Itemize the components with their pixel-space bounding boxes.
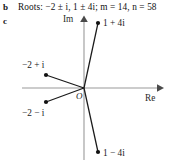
point-label-1-plus-4i: 1 + 4i [103, 18, 125, 28]
imaginary-axis-arrowhead [80, 16, 88, 23]
vector-1-plus-4i [84, 23, 98, 88]
imaginary-axis-label: Im [63, 14, 74, 24]
point-label-1-minus-4i: 1 − 4i [103, 148, 125, 158]
point-minus2-minus-i [44, 100, 48, 104]
point-label-minus2-minus-i: −2 − i [22, 108, 45, 118]
vector-minus2-plus-i [46, 75, 84, 88]
answer-text-b: Roots: −2 ± i, 1 ± 4i; m = 14, n = 58 [18, 2, 157, 12]
argand-diagram: Im Re O 1 + 4i −2 + i −2 − i 1 − 4i [0, 12, 187, 166]
answer-figure-panel: b Roots: −2 ± i, 1 ± 4i; m = 14, n = 58 … [0, 0, 187, 166]
origin-label: O [76, 91, 83, 101]
point-label-minus2-plus-i: −2 + i [22, 60, 45, 70]
real-axis-arrowhead [157, 84, 164, 92]
vector-1-minus-4i [84, 88, 98, 152]
real-axis-label: Re [145, 93, 155, 103]
part-label-b: b [3, 2, 8, 12]
point-1-minus-4i [96, 150, 100, 154]
point-minus2-plus-i [44, 73, 48, 77]
argand-svg: Im Re O 1 + 4i −2 + i −2 − i 1 − 4i [0, 12, 187, 166]
point-1-plus-4i [96, 21, 100, 25]
